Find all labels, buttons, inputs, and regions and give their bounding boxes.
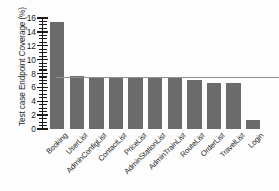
bar bbox=[89, 78, 103, 129]
bar bbox=[50, 22, 64, 129]
bar-series bbox=[43, 18, 275, 129]
y-axis-tick-label: 12 bbox=[27, 42, 36, 50]
y-axis-tick-label: 2 bbox=[31, 111, 36, 119]
x-axis-tick-labels: BookingUserListAdminConfigListContactLis… bbox=[43, 131, 279, 191]
bar-slot bbox=[126, 18, 146, 129]
bar bbox=[168, 78, 182, 129]
y-axis-tick-label: 16 bbox=[27, 14, 36, 22]
bar bbox=[226, 83, 240, 129]
bar-slot bbox=[67, 18, 87, 129]
bar bbox=[128, 78, 142, 129]
bar-slot bbox=[145, 18, 165, 129]
bar-slot bbox=[47, 18, 67, 129]
y-axis-tick-label: 14 bbox=[27, 28, 36, 36]
y-axis-tick-label: 0 bbox=[31, 125, 36, 133]
bar-chart-figure: Test case Endpoint Coverage (%) 02468101… bbox=[0, 0, 279, 191]
y-axis-tick-label: 6 bbox=[31, 83, 36, 91]
y-axis-tick-label: 10 bbox=[27, 55, 36, 63]
bar-slot bbox=[185, 18, 205, 129]
bar-slot bbox=[224, 18, 244, 129]
average-reference-line bbox=[56, 77, 279, 78]
y-axis-tick-label: 8 bbox=[31, 69, 36, 77]
bar-slot bbox=[243, 18, 263, 129]
plot-area: 0246810121416 bbox=[42, 18, 275, 129]
bar bbox=[109, 78, 123, 129]
y-axis-tick-label: 4 bbox=[31, 97, 36, 105]
bar bbox=[187, 80, 201, 129]
x-axis-tick-label: Login bbox=[247, 131, 266, 150]
bar-slot bbox=[87, 18, 107, 129]
y-axis-label: Test case Endpoint Coverage (%) bbox=[18, 0, 27, 137]
bar-slot bbox=[204, 18, 224, 129]
bar bbox=[148, 78, 162, 129]
bar bbox=[70, 76, 84, 129]
bar bbox=[246, 120, 260, 129]
bar-slot bbox=[106, 18, 126, 129]
bar-slot bbox=[165, 18, 185, 129]
bar bbox=[207, 83, 221, 129]
